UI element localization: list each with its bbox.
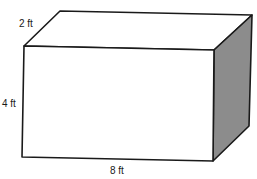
depth-label: 2 ft: [19, 18, 33, 29]
top-face: [24, 11, 252, 50]
front-face: [22, 46, 214, 161]
length-label: 8 ft: [110, 165, 124, 176]
prism-diagram: [0, 0, 257, 179]
height-label: 4 ft: [2, 98, 16, 109]
